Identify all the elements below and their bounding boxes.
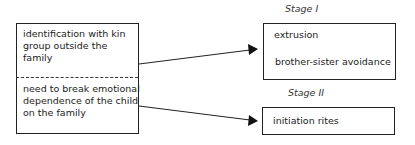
- arrow-to-stage-1-icon: [139, 44, 258, 64]
- arrow-to-stage-2-icon: [139, 106, 258, 126]
- arrows-layer: [0, 0, 415, 145]
